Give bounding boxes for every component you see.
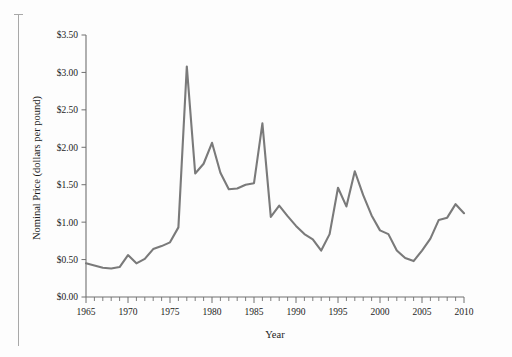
y-axis-tick-label: $3.00 <box>57 68 79 78</box>
x-axis-tick-label: 1975 <box>161 307 180 317</box>
x-axis-tick-label: 2000 <box>371 307 390 317</box>
y-axis-title: Nominal Price (dollars per pound) <box>31 95 43 240</box>
y-axis-tick-label: $2.50 <box>57 105 79 115</box>
x-axis-tick-label: 1995 <box>329 307 348 317</box>
y-axis-tick-label: $2.00 <box>57 143 79 153</box>
x-axis-tick-label: 2005 <box>413 307 432 317</box>
y-axis-tick-label: $0.00 <box>57 292 79 302</box>
data-series-group <box>86 66 464 268</box>
y-axis-tick-label: $0.50 <box>57 255 79 265</box>
line-chart: $0.00$0.50$1.00$1.50$2.00$2.50$3.00$3.50… <box>0 0 512 357</box>
data-series-line <box>86 66 464 268</box>
y-axis-tick-label: $1.50 <box>57 180 79 190</box>
x-axis-tick-label: 2010 <box>455 307 474 317</box>
x-axis-title: Year <box>265 329 285 340</box>
x-axis-tick-label: 1990 <box>287 307 306 317</box>
x-axis: 1965197019751980198519901995200020052010 <box>77 297 474 317</box>
chart-figure: $0.00$0.50$1.00$1.50$2.00$2.50$3.00$3.50… <box>0 0 512 357</box>
y-axis-tick-label: $1.00 <box>57 218 79 228</box>
x-axis-tick-label: 1980 <box>203 307 222 317</box>
y-axis: $0.00$0.50$1.00$1.50$2.00$2.50$3.00$3.50 <box>57 30 86 302</box>
y-axis-tick-label: $3.50 <box>57 30 79 40</box>
x-axis-tick-label: 1985 <box>245 307 264 317</box>
x-axis-tick-label: 1965 <box>77 307 96 317</box>
x-axis-tick-label: 1970 <box>119 307 138 317</box>
